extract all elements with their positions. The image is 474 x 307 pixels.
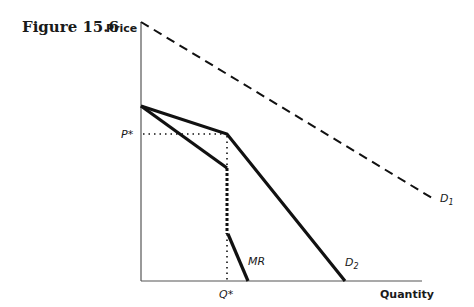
d2-label: D2 xyxy=(345,256,359,271)
d2-curve xyxy=(141,106,345,281)
mr-lower-segment xyxy=(228,234,248,281)
mr-label: MR xyxy=(248,255,265,268)
x-axis-label: Quantity xyxy=(380,288,434,301)
y-axis-label: Price xyxy=(106,22,137,35)
qstar-label: Q* xyxy=(219,288,234,301)
d1-curve xyxy=(141,22,432,198)
chart: Price Quantity P* Q* MR D2 D1 xyxy=(0,0,474,307)
d1-label: D1 xyxy=(440,192,454,207)
pstar-label: P* xyxy=(121,128,134,141)
mr-upper-segment xyxy=(141,106,227,168)
